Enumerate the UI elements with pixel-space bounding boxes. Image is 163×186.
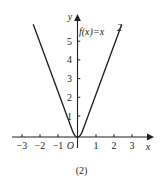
figure-caption: (2) bbox=[76, 165, 88, 177]
x-tick-label--2: −2 bbox=[35, 140, 46, 151]
x-tick-label--1: −1 bbox=[53, 140, 64, 151]
y-axis-label: y bbox=[67, 11, 73, 22]
figure-container: −3 −2 −1 1 2 3 1 2 3 4 5 O y x f(x)=x 2 … bbox=[0, 0, 163, 186]
x-tick-label-1: 1 bbox=[94, 140, 99, 151]
function-label-text: f(x)=x bbox=[79, 26, 105, 38]
x-tick-label-2: 2 bbox=[112, 140, 117, 151]
y-tick-label-3: 3 bbox=[67, 73, 72, 84]
x-axis-label: x bbox=[145, 141, 151, 152]
function-plot: −3 −2 −1 1 2 3 1 2 3 4 5 O y x f(x)=x 2 … bbox=[0, 0, 163, 186]
function-label: f(x)=x 2 bbox=[79, 22, 122, 39]
y-tick-label-5: 5 bbox=[67, 36, 72, 47]
origin-label: O bbox=[67, 140, 74, 151]
x-tick-label--3: −3 bbox=[17, 140, 28, 151]
y-tick-label-4: 4 bbox=[67, 54, 72, 65]
function-label-exponent: 2 bbox=[117, 22, 122, 33]
x-tick-label-3: 3 bbox=[130, 140, 135, 151]
y-tick-label-2: 2 bbox=[67, 92, 72, 103]
